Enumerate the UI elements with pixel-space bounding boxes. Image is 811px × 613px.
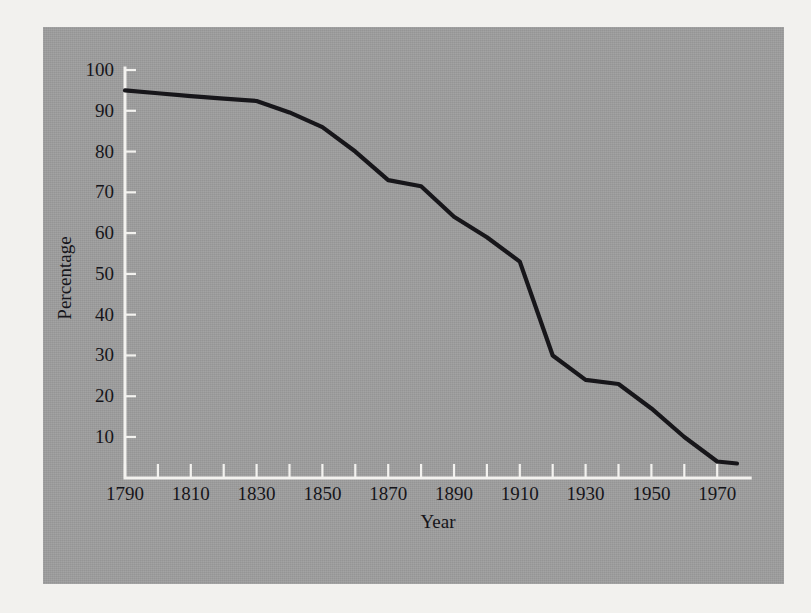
- x-tick-label: 1830: [238, 483, 276, 504]
- y-tick-label: 100: [86, 59, 115, 80]
- x-tick-label: 1790: [106, 483, 144, 504]
- x-axis-title: Year: [420, 511, 456, 532]
- data-series-line: [125, 90, 737, 463]
- y-tick-label: 60: [95, 222, 114, 243]
- figure-root: 1020304050607080901001790181018301850187…: [0, 0, 811, 613]
- y-tick-label: 40: [95, 304, 114, 325]
- y-tick-label: 10: [95, 426, 114, 447]
- tick-labels-group: 1020304050607080901001790181018301850187…: [86, 59, 737, 504]
- y-tick-label: 70: [95, 181, 114, 202]
- data-series-group: [125, 90, 737, 463]
- x-tick-label: 1950: [632, 483, 670, 504]
- x-tick-label: 1930: [567, 483, 605, 504]
- y-tick-label: 30: [95, 344, 114, 365]
- y-tick-label: 80: [95, 141, 114, 162]
- y-axis-title: Percentage: [54, 236, 75, 319]
- y-tick-label: 50: [95, 263, 114, 284]
- x-tick-label: 1890: [435, 483, 473, 504]
- x-tick-label: 1850: [303, 483, 341, 504]
- x-tick-label: 1910: [501, 483, 539, 504]
- x-tick-label: 1970: [698, 483, 736, 504]
- line-chart-plot: 1020304050607080901001790181018301850187…: [0, 0, 811, 613]
- x-tick-label: 1870: [369, 483, 407, 504]
- x-tick-label: 1810: [172, 483, 210, 504]
- tick-marks-group: [125, 70, 717, 478]
- y-tick-label: 90: [95, 100, 114, 121]
- y-tick-label: 20: [95, 385, 114, 406]
- axis-lines: [125, 68, 750, 478]
- axes-group: [125, 68, 750, 478]
